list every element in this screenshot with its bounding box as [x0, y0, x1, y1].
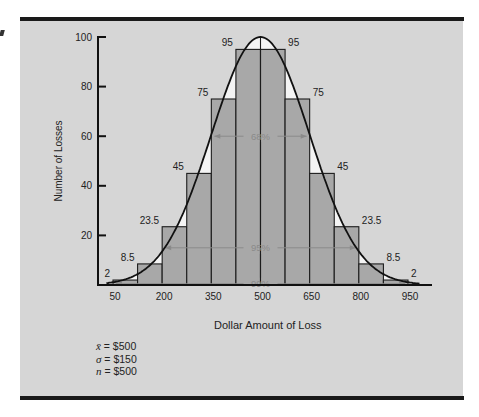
y-tick-label: 20	[81, 230, 93, 241]
histogram-bar	[162, 227, 187, 285]
chart-figure: 68%95%99%2040608010050200350500650800950…	[0, 0, 479, 417]
x-tick-label: 500	[254, 291, 271, 302]
bar-value-label: 45	[173, 161, 185, 172]
n-value: = $500	[102, 365, 137, 377]
y-tick-label: 60	[81, 131, 93, 142]
x-tick-label: 50	[109, 291, 121, 302]
y-tick-label: 40	[81, 180, 93, 191]
summary-stats: x̄ = $500 σ = $150 n = $500	[96, 340, 137, 378]
x-tick-label: 950	[402, 291, 419, 302]
histogram-bar	[310, 173, 335, 285]
annotation-label: 68%	[251, 131, 271, 142]
bar-value-label: 75	[197, 87, 209, 98]
stat-n: n = $500	[96, 365, 137, 378]
annotation-label: 99%	[251, 278, 271, 289]
sigma-value: = $150	[101, 353, 136, 365]
y-axis-label: Number of Losses	[53, 120, 64, 201]
histogram-bar	[138, 264, 163, 285]
x-tick-label: 800	[352, 291, 369, 302]
mean-value: = $500	[101, 340, 136, 352]
bar-value-label: 8.5	[386, 252, 400, 263]
histogram-bar	[334, 227, 359, 285]
histogram-bar	[211, 99, 236, 285]
y-tick-label: 80	[81, 81, 93, 92]
histogram-bar	[285, 99, 310, 285]
bar-value-label: 95	[222, 37, 234, 48]
bar-value-label: 2	[104, 268, 110, 279]
x-axis-label: Dollar Amount of Loss	[214, 319, 322, 331]
x-tick-label: 350	[205, 291, 222, 302]
y-tick-label: 100	[75, 32, 92, 43]
annotation-label: 95%	[251, 242, 271, 253]
histogram-bar	[359, 264, 384, 285]
bar-value-label: 8.5	[121, 252, 135, 263]
bar-value-label: 2	[411, 268, 417, 279]
bar-value-label: 45	[337, 161, 349, 172]
plot-area: 68%95%99%2040608010050200350500650800950…	[0, 0, 479, 417]
stat-mean: x̄ = $500	[96, 340, 137, 353]
bar-value-label: 23.5	[140, 215, 160, 226]
histogram-bar	[187, 173, 212, 285]
bar-value-label: 23.5	[362, 215, 382, 226]
x-tick-label: 650	[303, 291, 320, 302]
bar-value-label: 75	[313, 87, 325, 98]
x-tick-label: 200	[156, 291, 173, 302]
stat-sigma: σ = $150	[96, 353, 137, 366]
bar-value-label: 95	[288, 37, 300, 48]
